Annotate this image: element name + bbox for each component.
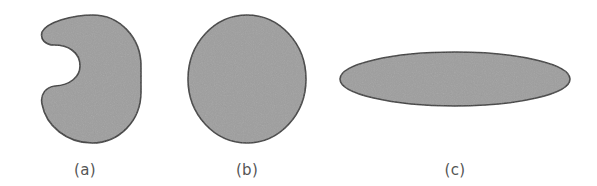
shapes-illustration (0, 0, 597, 186)
shape-group-b (188, 15, 306, 143)
shape-group-a (42, 15, 141, 143)
circle-shape (188, 15, 306, 143)
panel-label-b: (b) (236, 163, 258, 178)
panel-label-c: (c) (445, 163, 466, 178)
figure-container: (a) (b) (c) (0, 0, 597, 186)
concave-bean-shape (42, 15, 141, 143)
flat-ellipse-shape (340, 52, 570, 106)
panel-label-a: (a) (74, 163, 96, 178)
shape-group-c (340, 52, 570, 106)
